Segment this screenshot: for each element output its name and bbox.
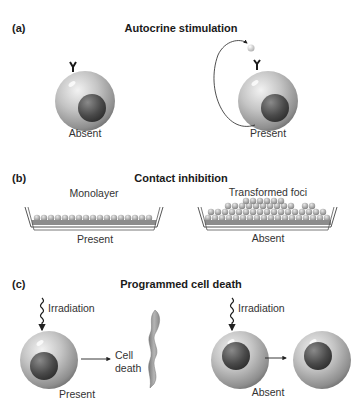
contact-inhibition-present-label: Present (77, 233, 113, 245)
contact-inhibition-absent-label: Absent (252, 232, 285, 244)
transformed-foci-dish (198, 198, 337, 230)
left-irradiation-label: Irradiation (48, 302, 95, 314)
cell-death-label-line2: death (115, 362, 141, 374)
panel-a-letter: (a) (12, 22, 25, 34)
panel-b-title: Contact inhibition (134, 172, 227, 184)
receptor-icon (70, 62, 76, 72)
growth-factor-ball (248, 45, 255, 52)
irradiation-squiggle-icon (231, 298, 234, 330)
autocrine-absent-label: Absent (69, 127, 102, 139)
autocrine-present-cell (214, 41, 298, 131)
panel-b-letter: (b) (12, 172, 26, 184)
right-irradiation-label: Irradiation (238, 302, 285, 314)
apoptosis-present-label: Present (59, 388, 95, 400)
receptor-icon (254, 60, 260, 70)
dead-cell-fragment-icon (149, 310, 160, 388)
cell-death-label-line1: Cell (115, 349, 133, 361)
autocrine-absent-cell (55, 62, 115, 131)
panel-c-letter: (c) (12, 278, 25, 290)
monolayer-dish (25, 207, 163, 230)
apoptosis-absent-label: Absent (252, 386, 285, 398)
irradiation-squiggle-icon (41, 298, 44, 330)
monolayer-caption: Monolayer (69, 187, 118, 199)
transformed-foci-caption: Transformed foci (229, 186, 307, 198)
panel-c-title: Programmed cell death (120, 278, 242, 290)
panel-a-title: Autocrine stimulation (124, 22, 237, 34)
diagram-canvas (0, 0, 353, 400)
autocrine-present-label: Present (250, 127, 286, 139)
